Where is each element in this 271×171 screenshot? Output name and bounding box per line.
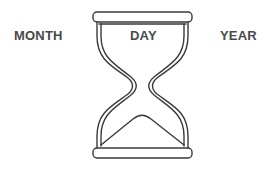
- hourglass-icon: [0, 0, 271, 171]
- month-label: MONTH: [14, 29, 63, 42]
- year-label: YEAR: [220, 29, 257, 42]
- day-label: DAY: [130, 29, 157, 42]
